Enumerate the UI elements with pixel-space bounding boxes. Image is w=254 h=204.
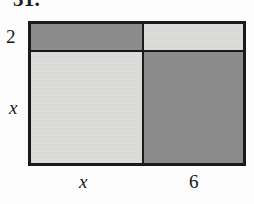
dimension-label-height-bottom: x: [9, 98, 17, 117]
problem-number: 31.: [13, 0, 40, 10]
area-cell-top-right: [144, 24, 243, 52]
area-cell-top-left: [31, 24, 144, 52]
diagram-page: 31. 2 x x 6: [0, 0, 254, 204]
dimension-label-width-right: 6: [189, 172, 199, 191]
area-model-figure: [28, 21, 246, 166]
dimension-label-width-left: x: [79, 172, 87, 191]
dimension-label-height-top: 2: [6, 27, 16, 46]
area-cell-bottom-right: [144, 52, 243, 163]
area-cell-bottom-left: [31, 52, 144, 163]
